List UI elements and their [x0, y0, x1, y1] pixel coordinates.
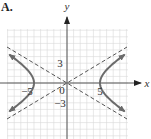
- x-tick-label: −5: [21, 85, 33, 97]
- x-axis-label: x: [144, 77, 150, 89]
- y-tick-label: 3: [57, 57, 63, 69]
- origin-label: 0: [59, 84, 65, 96]
- x-tick-label: 5: [97, 85, 103, 97]
- y-tick-label: −3: [54, 97, 66, 109]
- hyperbola-chart: xy−553−30: [0, 0, 151, 139]
- y-axis-label: y: [64, 0, 70, 12]
